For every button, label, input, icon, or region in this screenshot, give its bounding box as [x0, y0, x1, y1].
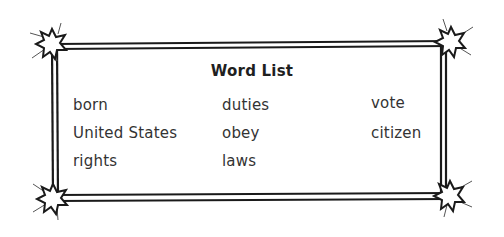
word-item: rights — [73, 152, 117, 170]
word-item: duties — [222, 96, 269, 114]
starburst-icon — [30, 23, 66, 61]
word-item: born — [73, 96, 108, 114]
word-item: obey — [222, 124, 260, 142]
word-list-frame — [0, 0, 504, 237]
word-item: citizen — [371, 124, 421, 142]
frame-top-border — [55, 41, 450, 49]
word-item: laws — [222, 152, 256, 170]
word-list-title: Word List — [0, 62, 504, 80]
word-item: United States — [73, 124, 177, 142]
word-item: vote — [371, 94, 405, 112]
starburst-icon — [33, 184, 67, 220]
frame-bottom-border — [55, 193, 450, 201]
starburst-icon — [434, 181, 472, 217]
